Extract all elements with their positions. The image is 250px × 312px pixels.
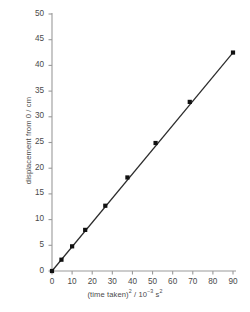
x-axis-tick-label: 10 [62, 277, 82, 286]
x-axis-tick-label: 40 [122, 277, 142, 286]
data-point-marker [231, 50, 235, 54]
best-fit-line [52, 53, 233, 271]
x-axis-tick-label: 20 [82, 277, 102, 286]
data-point-marker [103, 204, 107, 208]
y-axis-tick-label: 30 [24, 111, 44, 120]
data-point-marker [188, 100, 192, 104]
y-axis-tick-label: 50 [24, 9, 44, 18]
data-point-marker [70, 244, 74, 248]
x-axis-tick-label: 70 [183, 277, 203, 286]
y-axis-tick-label: 40 [24, 60, 44, 69]
data-point-marker [50, 269, 54, 273]
x-axis-tick-label: 30 [102, 277, 122, 286]
chart-container: displacement from 0 / cm (time taken)2 /… [0, 0, 250, 312]
x-axis-tick-label: 90 [223, 277, 243, 286]
y-axis-tick-label: 5 [24, 240, 44, 249]
x-axis-tick-label: 0 [42, 277, 62, 286]
x-axis-tick-label: 60 [163, 277, 183, 286]
y-axis-tick-label: 0 [24, 266, 44, 275]
y-axis-tick-label: 20 [24, 163, 44, 172]
data-point-marker [59, 258, 63, 262]
x-axis-tick-label: 80 [203, 277, 223, 286]
y-axis-tick-label: 10 [24, 214, 44, 223]
data-point-marker [125, 175, 129, 179]
y-axis-tick-label: 35 [24, 86, 44, 95]
y-axis-tick-label: 15 [24, 188, 44, 197]
y-axis-tick-label: 45 [24, 34, 44, 43]
data-point-marker [83, 228, 87, 232]
y-axis-tick-label: 25 [24, 137, 44, 146]
data-point-marker [153, 141, 157, 145]
x-axis-tick-label: 50 [143, 277, 163, 286]
